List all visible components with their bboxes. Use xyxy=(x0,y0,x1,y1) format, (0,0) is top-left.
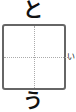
next-character: う xyxy=(20,89,46,112)
horizontal-guide-line xyxy=(4,57,68,58)
previous-character: と xyxy=(20,0,46,22)
side-character: い xyxy=(67,52,75,62)
writing-practice-box[interactable] xyxy=(2,24,66,90)
